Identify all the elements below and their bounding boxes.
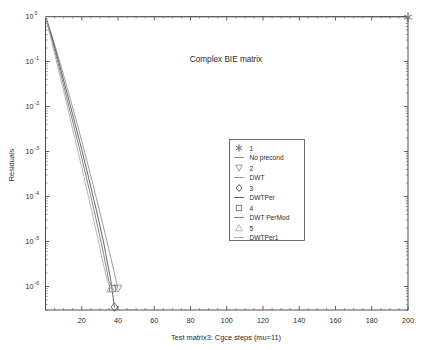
y-tick-exponent: -5 <box>35 235 40 241</box>
x-tick-label: 160 <box>330 316 342 325</box>
y-tick-mantissa: 10 <box>26 102 34 111</box>
legend-index-label: 3 <box>250 185 254 192</box>
y-tick-exponent: -4 <box>35 190 40 196</box>
legend-series-label: DWT PerMod <box>250 214 290 221</box>
x-tick-label: 40 <box>114 316 122 325</box>
chart-legend[interactable]: 1No precond2DWT3DWTPer4DWT PerMod5DWTPer… <box>230 140 305 242</box>
legend-series-label: DWTPer1 <box>250 234 279 241</box>
legend-series-label: DWTPer <box>250 194 276 201</box>
y-tick-exponent: -6 <box>35 280 40 286</box>
x-tick-label: 100 <box>221 316 233 325</box>
y-tick-exponent: -1 <box>35 55 40 61</box>
chart-figure: 20406080100120140160180200 10010-110-210… <box>0 0 424 350</box>
residual-convergence-chart: 20406080100120140160180200 10010-110-210… <box>0 0 424 350</box>
chart-background <box>0 0 424 350</box>
plot-title: Complex BIE matrix <box>190 55 262 64</box>
x-tick-label: 180 <box>366 316 378 325</box>
y-tick-mantissa: 10 <box>26 12 34 21</box>
y-tick-exponent: -3 <box>35 145 40 151</box>
x-tick-label: 200 <box>402 316 414 325</box>
legend-index-label: 1 <box>250 145 254 152</box>
y-tick-exponent: 0 <box>35 10 38 16</box>
y-tick-mantissa: 10 <box>26 147 34 156</box>
y-axis-title: Residuals <box>7 148 16 181</box>
x-tick-label: 120 <box>257 316 269 325</box>
x-tick-label: 60 <box>150 316 158 325</box>
legend-index-label: 5 <box>250 225 254 232</box>
y-tick-mantissa: 10 <box>26 192 34 201</box>
x-tick-label: 80 <box>187 316 195 325</box>
y-tick-mantissa: 10 <box>26 57 34 66</box>
legend-series-label: No precond <box>250 154 284 162</box>
legend-index-label: 4 <box>250 205 254 212</box>
x-tick-label: 20 <box>78 316 86 325</box>
legend-series-label: DWT <box>250 174 265 181</box>
y-tick-mantissa: 10 <box>26 282 34 291</box>
x-axis-title: Test matrix3: Cgce steps (mu=11) <box>171 333 281 342</box>
y-tick-mantissa: 10 <box>26 237 34 246</box>
y-tick-exponent: -2 <box>35 100 40 106</box>
x-tick-label: 140 <box>293 316 305 325</box>
legend-index-label: 2 <box>250 165 254 172</box>
